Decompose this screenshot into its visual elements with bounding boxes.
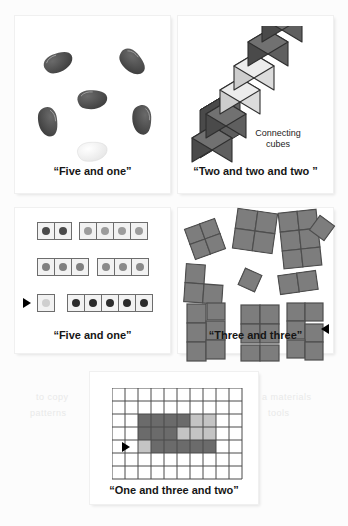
dot-card-group-3b[interactable] (67, 294, 153, 312)
dot-card[interactable] (131, 258, 149, 276)
bean-dark-5 (128, 101, 156, 138)
dot-card-group-2a[interactable] (37, 258, 89, 276)
dot (42, 263, 50, 271)
bleed-text-4: tools (268, 408, 290, 418)
dot-card[interactable] (37, 258, 55, 276)
dot-card[interactable] (54, 258, 72, 276)
dot (76, 263, 84, 271)
dot-card[interactable] (67, 294, 85, 312)
tile-single[interactable] (237, 267, 263, 293)
dot-card-group-1a[interactable] (37, 222, 72, 240)
dot (136, 263, 144, 271)
tile-square-2x2[interactable] (231, 207, 278, 254)
row-marker-arrow-icon (23, 298, 31, 308)
dot-card-row-2 (15, 258, 170, 276)
dot (101, 227, 109, 235)
dot (89, 299, 97, 307)
tile-l-tromino[interactable] (183, 263, 226, 306)
bean-dark-4 (32, 102, 63, 141)
dot-card[interactable] (114, 258, 132, 276)
panel-tiles: “Three and three” (178, 208, 333, 353)
dot-card[interactable] (118, 294, 136, 312)
bean-light-1 (73, 137, 111, 167)
dot (42, 227, 50, 235)
connecting-cubes-label-line2: cubes (266, 139, 290, 149)
dot-card-row-3 (15, 294, 170, 312)
dot-card-group-1b[interactable] (79, 222, 148, 240)
connecting-cubes-label: Connecting cubes (238, 128, 318, 150)
dot-card[interactable] (79, 222, 97, 240)
dot (42, 299, 50, 307)
caption-dot-cards: “Five and one” (15, 329, 170, 341)
figure-root: to copy patterns a materials tools (0, 0, 348, 526)
dot (123, 299, 131, 307)
bleed-text-3: a materials (262, 392, 312, 402)
dot-card[interactable] (101, 294, 119, 312)
panel-beans: “Five and one” (15, 16, 170, 193)
dot-card-group-2b[interactable] (97, 258, 149, 276)
dot-card[interactable] (135, 294, 153, 312)
caption-grid: “One and three and two” (90, 484, 258, 496)
dot-card[interactable] (84, 294, 102, 312)
dot-card[interactable] (71, 258, 89, 276)
dot (59, 227, 67, 235)
dot (118, 227, 126, 235)
dot (102, 263, 110, 271)
connecting-cubes-label-line1: Connecting (255, 128, 301, 138)
dot (72, 299, 80, 307)
tile-domino[interactable] (277, 269, 320, 295)
dot (119, 263, 127, 271)
grid-paper[interactable] (112, 388, 244, 482)
dot-card[interactable] (113, 222, 131, 240)
dot (84, 227, 92, 235)
dot-card[interactable] (96, 222, 114, 240)
tile-square-2x2[interactable] (183, 217, 227, 261)
caption-cubes: “Two and two and two ” (178, 165, 333, 177)
row-marker-arrow-icon (122, 442, 130, 452)
caption-beans: “Five and one” (15, 165, 170, 177)
bean-dark-3 (74, 86, 111, 114)
panel-dot-cards: “Five and one” (15, 208, 170, 353)
dot-card[interactable] (54, 222, 72, 240)
panel-cubes: Connecting cubes “Two and two and two ” (178, 16, 333, 193)
panel-grid: “One and three and two” (90, 372, 258, 504)
dot-card[interactable] (97, 258, 115, 276)
dot-card[interactable] (37, 222, 55, 240)
dot (106, 299, 114, 307)
dot-card[interactable] (130, 222, 148, 240)
caption-tiles: “Three and three” (178, 329, 333, 341)
dot-card-row-1 (15, 222, 170, 240)
bean-dark-1 (38, 44, 79, 80)
dot (140, 299, 148, 307)
dot-card[interactable] (37, 294, 55, 312)
bleed-text-1: to copy (36, 392, 69, 402)
dot (135, 227, 143, 235)
dot (59, 263, 67, 271)
bean-dark-2 (112, 42, 153, 82)
bleed-text-2: patterns (30, 408, 67, 418)
dot-card-group-3a[interactable] (37, 294, 55, 312)
